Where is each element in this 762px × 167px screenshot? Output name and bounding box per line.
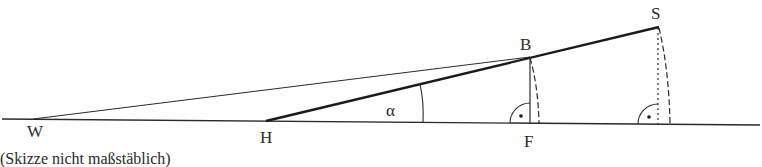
label-F: F: [524, 132, 533, 151]
line-H-S: [266, 27, 659, 121]
dashed-arc-S: [659, 28, 670, 124]
label-alpha: α: [386, 101, 395, 120]
geometry-sketch: W H B F S α: [0, 0, 762, 167]
right-angle-F: [510, 103, 530, 123]
caption-not-to-scale: (Skizze nicht maßstäblich): [0, 150, 171, 167]
right-angle-dot-S: [647, 115, 651, 119]
angle-alpha-arc: [420, 84, 423, 122]
ground-line: [2, 119, 760, 125]
label-H: H: [260, 128, 272, 147]
label-W: W: [27, 122, 44, 141]
label-B: B: [520, 35, 531, 54]
dashed-arc-B: [530, 58, 539, 123]
label-S: S: [651, 4, 660, 23]
right-angle-S: [638, 104, 658, 124]
line-W-B: [33, 57, 530, 119]
right-angle-dot-F: [519, 114, 523, 118]
